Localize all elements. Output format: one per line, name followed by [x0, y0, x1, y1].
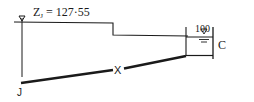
hydraulic-diagram: ZJ= 127·55 X J 100 C [0, 0, 254, 102]
hydraulic-grade-line [14, 22, 188, 36]
pipe-x-segment-1 [21, 70, 113, 83]
reservoir-level-label: 100 [195, 23, 210, 34]
reservoir-label: C [218, 38, 226, 52]
pipe-x-segment-2 [124, 56, 186, 69]
junction-head-label: ZJ= 127·55 [33, 5, 90, 20]
junction-label: J [17, 87, 22, 98]
pipe-label: X [114, 64, 122, 76]
